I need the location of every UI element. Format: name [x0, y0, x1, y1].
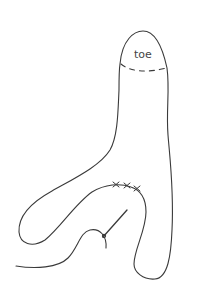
sock-outline — [19, 31, 173, 279]
toe-label: toe — [134, 48, 152, 61]
sock-diagram: toe — [0, 0, 212, 304]
heel-stitches — [113, 182, 140, 191]
toe-seam — [121, 64, 166, 71]
sock-illustration: toe — [0, 0, 212, 304]
yarn — [16, 230, 106, 268]
needle — [103, 210, 127, 237]
